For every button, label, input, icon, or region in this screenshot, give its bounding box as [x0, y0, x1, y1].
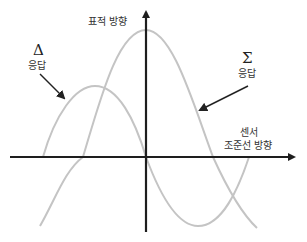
delta-pointer-arrow — [40, 74, 64, 98]
delta-response-label: 응답 — [28, 60, 46, 72]
sigma-symbol: Σ — [242, 50, 253, 66]
sensor-label-line2: 조준선 방향 — [224, 140, 272, 152]
sigma-pointer-arrow — [200, 86, 248, 110]
sum-pattern-curve — [40, 30, 257, 228]
sigma-response-label: 응답 — [238, 68, 256, 80]
sensor-label-line1: 센서 — [240, 127, 258, 139]
target-direction-label: 표적 방향 — [88, 16, 127, 28]
monopulse-pattern-diagram — [0, 0, 307, 242]
delta-symbol: Δ — [33, 42, 44, 58]
